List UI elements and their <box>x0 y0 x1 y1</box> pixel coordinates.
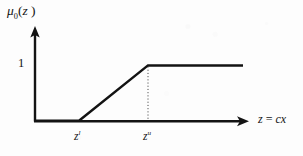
y-axis <box>30 26 39 122</box>
x-tick-z-lower-superscript: l <box>78 129 80 137</box>
membership-function-figure: μ0(z ) 1 z = cx zl zu <box>0 0 303 156</box>
x-axis-label-expression: cx <box>275 112 286 126</box>
x-axis-label: z = cx <box>258 113 286 125</box>
membership-curve <box>36 65 243 120</box>
y-axis-label: μ0(z ) <box>7 4 36 18</box>
y-axis-label-mu: μ <box>7 3 14 18</box>
x-tick-label-z-lower: zl <box>74 131 80 143</box>
plot-canvas <box>0 0 303 156</box>
x-tick-label-z-upper: zu <box>143 131 151 143</box>
y-tick-label-one: 1 <box>18 57 24 70</box>
x-tick-z-upper-superscript: u <box>147 129 151 137</box>
x-axis-label-equals: = <box>263 112 276 126</box>
y-axis-label-paren-close: ) <box>28 3 36 18</box>
